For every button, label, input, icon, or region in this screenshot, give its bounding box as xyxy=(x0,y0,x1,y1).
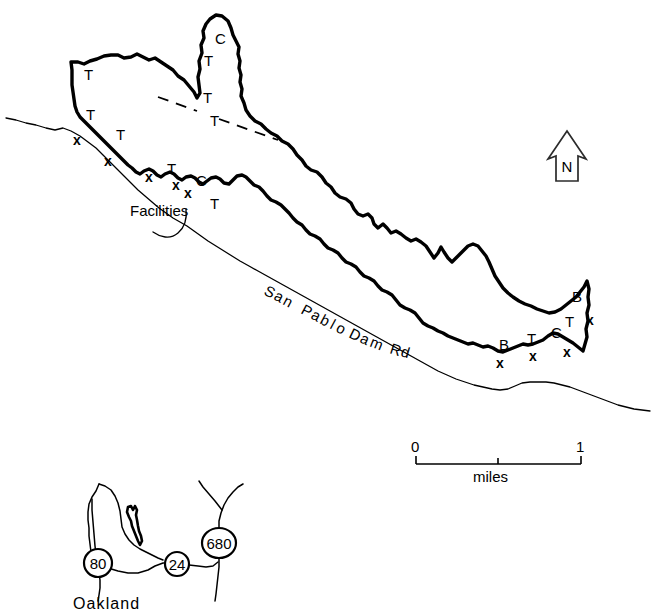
map-canvas: T T x x x x x x x x x T T C T T T C T B … xyxy=(0,0,651,615)
site-code-label: C xyxy=(196,172,207,189)
site-code-label: T xyxy=(86,106,95,123)
dashed-segment-left xyxy=(158,97,197,111)
dashed-line-label-2: T xyxy=(210,112,219,129)
site-marker-x-3: x xyxy=(145,169,153,185)
inset-bay-shoreline xyxy=(88,484,99,552)
inset-route-24-east xyxy=(189,562,218,567)
site-code-label: T xyxy=(204,52,213,69)
site-code-label: T xyxy=(210,195,219,212)
dashed-transect-line: T T xyxy=(158,89,278,140)
site-marker-x-8: x xyxy=(563,344,571,360)
inset-route-680-branch xyxy=(199,481,222,510)
highway-shield-24: 24 xyxy=(165,552,189,576)
site-marker-x-1: x xyxy=(73,132,81,148)
site-marker-x-9: x xyxy=(586,312,594,328)
highway-shield-680: 680 xyxy=(202,528,236,558)
shield-680-label: 680 xyxy=(206,535,231,552)
north-arrow-label: N xyxy=(562,158,573,175)
site-marker-x-5: x xyxy=(184,185,192,201)
site-code-label: T xyxy=(84,66,93,83)
scale-bar-min-label: 0 xyxy=(411,438,419,455)
san-pablo-dam-road xyxy=(6,118,650,411)
scale-bar: 0 1 miles xyxy=(411,438,584,485)
north-arrow: N xyxy=(548,131,586,181)
site-marker-x-7: x xyxy=(529,348,537,364)
facilities-annotation: Facilities xyxy=(130,202,188,237)
site-marker-x-4: x xyxy=(172,177,180,193)
site-code-label: T xyxy=(527,330,536,347)
inset-route-680-north xyxy=(219,484,243,529)
facilities-label: Facilities xyxy=(130,202,188,219)
inset-route-80-north xyxy=(92,499,96,554)
site-marker-x-6: x xyxy=(496,355,504,371)
map-figure: T T x x x x x x x x x T T C T T T C T B … xyxy=(0,0,651,615)
site-code-label: B xyxy=(572,288,582,305)
site-code-label: C xyxy=(551,324,562,341)
site-marker-x-2: x xyxy=(104,153,112,169)
inset-locator-map: 80 24 680 Oakland xyxy=(73,481,243,612)
scale-bar-units-label: miles xyxy=(473,468,508,485)
site-code-label: C xyxy=(215,30,226,47)
shield-80-label: 80 xyxy=(90,555,107,572)
inset-route-24-west xyxy=(108,563,166,573)
scale-bar-max-label: 1 xyxy=(576,438,584,455)
shield-24-label: 24 xyxy=(169,556,186,573)
inset-city-label: Oakland xyxy=(73,595,140,612)
site-code-label: B xyxy=(499,336,509,353)
site-code-label: T xyxy=(167,160,176,177)
road-centerline xyxy=(6,118,650,411)
highway-shield-80: 80 xyxy=(84,549,112,577)
site-code-label: T xyxy=(565,313,574,330)
site-code-label: T xyxy=(116,126,125,143)
dashed-line-label-1: T xyxy=(203,89,212,106)
